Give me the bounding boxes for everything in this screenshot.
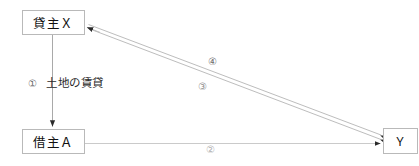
- node-lessor-x-label: 貸主Ｘ: [33, 13, 74, 32]
- edge-marker-4: ④: [208, 58, 217, 68]
- diagram-canvas: 貸主Ｘ 借主Ａ Ｙ ① 土地の賃貸 ② ③ ④: [0, 0, 419, 166]
- node-y: Ｙ: [383, 128, 418, 154]
- node-y-label: Ｙ: [394, 132, 407, 150]
- edge-arrow-3-tail-head: [381, 140, 383, 141]
- node-lessor-x: 貸主Ｘ: [22, 10, 85, 35]
- edge-line-4-y-to-lessor: [89, 25, 382, 136]
- node-lessee-a: 借主Ａ: [22, 129, 85, 154]
- edge-line-3-y-to-lessor: [89, 29, 382, 140]
- edge-marker-1: ①: [28, 79, 37, 89]
- edge-label-1: ① 土地の賃貸: [28, 78, 104, 90]
- edge-marker-2: ②: [206, 146, 215, 156]
- edge-text-1: 土地の賃貸: [46, 78, 104, 90]
- node-lessee-a-label: 借主Ａ: [33, 132, 74, 151]
- edge-arrow-4-head: [381, 136, 383, 137]
- edge-marker-3: ③: [198, 83, 207, 93]
